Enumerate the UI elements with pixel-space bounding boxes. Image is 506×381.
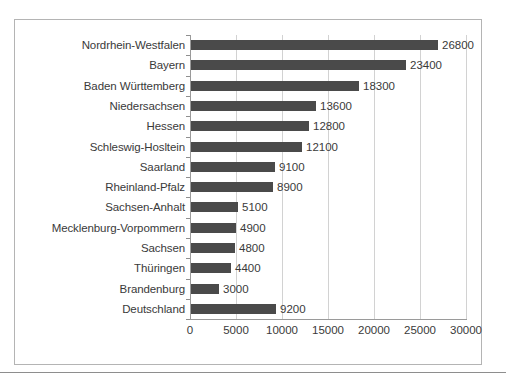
bar — [191, 202, 238, 212]
bar-row: Brandenburg3000 — [15, 279, 483, 300]
bar-value-label: 13600 — [320, 99, 352, 113]
category-label: Schleswig-Hosltein — [15, 140, 185, 154]
bar-row: Nordrhein-Westfalen26800 — [15, 35, 483, 56]
bar-row: Saarland9100 — [15, 157, 483, 178]
bar-row: Rheinland-Pfalz8900 — [15, 177, 483, 198]
bar — [191, 60, 406, 70]
category-label: Baden Württemberg — [15, 79, 185, 93]
bar — [191, 162, 275, 172]
bar — [191, 40, 438, 50]
category-label: Niedersachsen — [15, 99, 185, 113]
bar-value-label: 9200 — [280, 302, 306, 316]
bar-chart-plot-area: Nordrhein-Westfalen26800Bayern23400Baden… — [15, 20, 483, 366]
category-label: Hessen — [15, 119, 185, 133]
category-label: Sachsen — [15, 241, 185, 255]
bar — [191, 142, 302, 152]
bar-value-label: 12100 — [306, 140, 338, 154]
bar-row: Sachsen4800 — [15, 238, 483, 259]
x-tick-label: 25000 — [404, 323, 436, 337]
bar — [191, 101, 316, 111]
x-tick-label: 5000 — [223, 323, 249, 337]
bar-value-label: 4800 — [239, 241, 265, 255]
category-label: Nordrhein-Westfalen — [15, 38, 185, 52]
bar-value-label: 4900 — [240, 221, 266, 235]
category-label: Rheinland-Pfalz — [15, 180, 185, 194]
footer-rule — [0, 372, 506, 373]
bar — [191, 284, 219, 294]
bar — [191, 304, 276, 314]
category-label: Saarland — [15, 160, 185, 174]
bar-row: Mecklenburg-Vorpommern4900 — [15, 218, 483, 239]
bar-value-label: 26800 — [442, 38, 474, 52]
cut-off-caption — [6, 0, 226, 7]
bar-row: Niedersachsen13600 — [15, 96, 483, 117]
bar — [191, 182, 273, 192]
category-label: Sachsen-Anhalt — [15, 200, 185, 214]
x-tick-label: 15000 — [312, 323, 344, 337]
bar — [191, 243, 235, 253]
x-tick-label: 20000 — [358, 323, 390, 337]
bar-row: Sachsen-Anhalt5100 — [15, 197, 483, 218]
x-tick-label: 0 — [187, 323, 193, 337]
bar-value-label: 23400 — [410, 58, 442, 72]
category-label: Mecklenburg-Vorpommern — [15, 221, 185, 235]
bar-value-label: 8900 — [277, 180, 303, 194]
bar-value-label: 12800 — [313, 119, 345, 133]
bar — [191, 81, 359, 91]
bar — [191, 121, 309, 131]
chart-frame: Nordrhein-Westfalen26800Bayern23400Baden… — [14, 19, 482, 365]
bar-row: Hessen12800 — [15, 116, 483, 137]
bar-value-label: 4400 — [235, 261, 261, 275]
x-tick-label: 10000 — [266, 323, 298, 337]
bar-row: Deutschland9200 — [15, 299, 483, 320]
bar-value-label: 5100 — [242, 200, 268, 214]
bar-value-label: 3000 — [223, 282, 249, 296]
bar-row: Schleswig-Hosltein12100 — [15, 137, 483, 158]
bar-value-label: 18300 — [363, 79, 395, 93]
category-label: Brandenburg — [15, 282, 185, 296]
category-label: Deutschland — [15, 302, 185, 316]
x-tick-label: 30000 — [450, 323, 482, 337]
category-label: Bayern — [15, 58, 185, 72]
bar — [191, 263, 231, 273]
bar-value-label: 9100 — [279, 160, 305, 174]
bar — [191, 223, 236, 233]
bar-row: Bayern23400 — [15, 55, 483, 76]
bar-row: Baden Württemberg18300 — [15, 76, 483, 97]
bar-row: Thüringen4400 — [15, 258, 483, 279]
category-label: Thüringen — [15, 261, 185, 275]
